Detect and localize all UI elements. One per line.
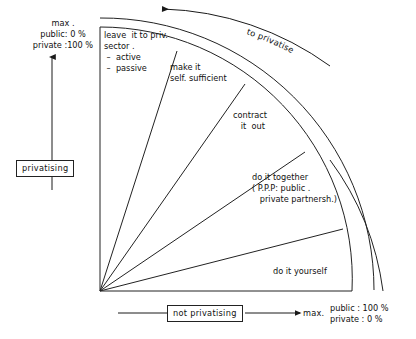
bottom-right-percentages: public : 100 % private : 0 % [330, 303, 389, 325]
segment-label-contract-it-out: contract it out [233, 110, 267, 132]
divider-1 [100, 51, 177, 291]
segment-label-do-it-yourself: do it yourself [273, 266, 327, 277]
horizontal-max-label: max. [303, 308, 324, 319]
privatising-axis-box[interactable]: privatising [16, 160, 74, 177]
privatisation-diagram: to privatise max . public: 0 % private :… [0, 0, 416, 339]
segment-label-make-it-self-sufficient: make it self. sufficient [170, 62, 227, 84]
segment-label-do-it-together-ppp: do it together ( P.P.P: public . private… [252, 172, 337, 205]
outer-arc-tail [330, 160, 383, 291]
not-privatising-axis-box[interactable]: not privatising [167, 305, 243, 322]
segment-label-leave-it-to-private-sector: leave it to priv. sector . – active – pa… [104, 30, 168, 74]
top-left-percentages: max . public: 0 % private :100 % [24, 18, 102, 51]
to-privatise-arrow [163, 9, 330, 66]
segment-dividers [100, 51, 343, 291]
